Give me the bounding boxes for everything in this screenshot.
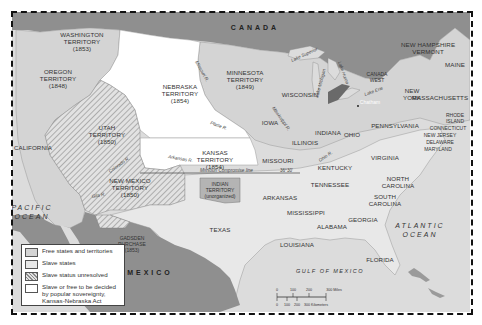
new-hampshire-label: NEW HAMPSHIRE [401,41,455,48]
svg-text:WASHINGTON: WASHINGTON [60,31,103,38]
svg-text:NORTH: NORTH [387,175,409,182]
svg-text:TERRITORY: TERRITORY [227,76,263,83]
kentucky-label: KENTUCKY [318,164,353,171]
svg-text:0: 0 [276,288,278,292]
svg-text:ISLAND: ISLAND [446,118,464,124]
free-swatch [25,248,38,257]
louisiana-label: LOUISIANA [280,241,315,248]
svg-text:(1848): (1848) [49,82,68,89]
svg-text:200: 200 [294,303,300,307]
massachusetts-label: MASSACHUSETTS [412,94,468,101]
legend-item-free: Free states and territories [25,247,121,257]
svg-text:(1853): (1853) [125,247,140,253]
pacific-label-1: PACIFIC [12,204,53,211]
chatham-dot [357,105,359,107]
svg-text:NEBRASKA: NEBRASKA [163,83,198,90]
svg-text:OREGON: OREGON [44,68,72,75]
svg-text:TERRITORY: TERRITORY [162,90,198,97]
svg-text:(1853): (1853) [73,45,92,52]
svg-text:300 Miles: 300 Miles [326,288,342,292]
atlantic-label-2: OCEAN [403,231,438,238]
svg-text:WEST: WEST [370,77,384,83]
svg-text:100: 100 [290,288,296,292]
california-label: CALIFORNIA [14,144,53,151]
svg-text:(1849): (1849) [236,83,255,90]
legend-item-popular-sovereignty: Slave or free to be decided by popular s… [25,283,121,304]
svg-text:SOUTH: SOUTH [374,193,396,200]
florida-label: FLORIDA [366,256,394,263]
illinois-label: ILLINOIS [292,139,318,146]
svg-text:NEW: NEW [405,87,420,94]
gulf-of-mexico-label: GULF OF MEXICO [296,268,364,274]
texas-label: TEXAS [210,226,231,233]
new-jersey-label: NEW JERSEY [424,132,457,138]
alabama-label: ALABAMA [317,223,348,230]
svg-text:TERRITORY: TERRITORY [112,184,148,191]
slave-swatch [25,260,38,269]
maryland-label: MARYLAND [424,146,452,152]
svg-text:CAROLINA: CAROLINA [369,200,402,207]
svg-text:100: 100 [284,303,290,307]
tennessee-label: TENNESSEE [311,181,349,188]
chatham-label: Chatham [360,99,380,105]
canada-label: CANADA [231,24,279,31]
svg-text:(1850): (1850) [98,138,117,145]
svg-text:(1850): (1850) [121,191,140,198]
kansas-territory-region [140,138,258,170]
svg-text:TERRITORY: TERRITORY [89,131,125,138]
hatched-swatch [25,272,38,281]
svg-text:300 Kilometers: 300 Kilometers [304,303,328,307]
svg-text:NEW MEXICO: NEW MEXICO [109,177,151,184]
iowa-label: IOWA [262,119,279,126]
svg-text:200: 200 [306,288,312,292]
svg-text:TERRITORY: TERRITORY [64,38,100,45]
georgia-label: GEORGIA [348,216,378,223]
ohio-label: OHIO [344,131,360,138]
missouri-label: MISSOURI [262,157,294,164]
rhode-island-label: RHODE ISLAND [446,112,465,124]
svg-text:0: 0 [276,303,278,307]
svg-text:CAROLINA: CAROLINA [382,182,415,189]
maine-label: MAINE [445,61,465,68]
arkansas-label: ARKANSAS [263,194,298,201]
legend-item-slave: Slave states [25,259,121,269]
pacific-label-2: OCEAN [15,213,50,220]
mississippi-label: MISSISSIPPI [287,209,325,216]
svg-text:UTAH: UTAH [99,124,116,131]
virginia-label: VIRGINIA [371,154,400,161]
indiana-label: INDIANA [315,129,342,136]
svg-text:(unorganized): (unorganized) [205,193,236,199]
legend-item-unresolved: Slave status unresolved [25,271,121,281]
svg-text:TERRITORY: TERRITORY [40,75,76,82]
wisconsin-label: WISCONSIN [282,91,319,98]
pennsylvania-label: PENNSYLVANIA [371,122,420,129]
map-legend: Free states and territories Slave states… [21,244,125,306]
compromise-line-label: Missouri Compromise line [200,168,253,173]
mexico-label: MEXICO [127,269,173,276]
delaware-label: DELAWARE [426,139,454,145]
atlantic-label-1: ATLANTIC [394,222,444,229]
svg-text:MINNESOTA: MINNESOTA [226,69,264,76]
svg-text:(1854): (1854) [171,97,190,104]
svg-text:KANSAS: KANSAS [202,149,228,156]
vermont-label: VERMONT [412,48,444,55]
svg-text:TERRITORY: TERRITORY [197,156,233,163]
connecticut-label: CONNECTICUT [430,125,466,131]
white-swatch [25,284,38,293]
compromise-latitude-label: 36°30' [280,168,293,173]
